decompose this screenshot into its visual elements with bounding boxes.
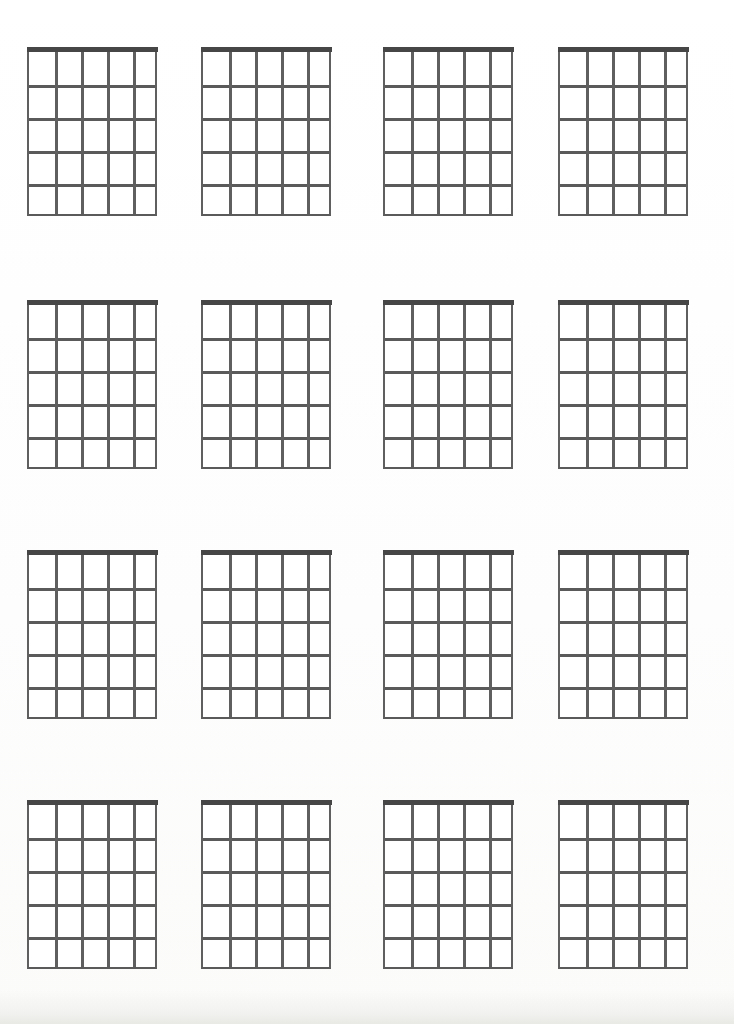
chord-diagram-16[interactable] bbox=[558, 805, 688, 969]
nut-bar bbox=[201, 550, 332, 556]
string-line-2 bbox=[586, 52, 589, 214]
fretboard bbox=[558, 805, 688, 969]
string-line-3 bbox=[255, 805, 258, 967]
chord-diagram-4[interactable] bbox=[558, 52, 688, 216]
string-line-2 bbox=[55, 305, 58, 467]
string-line-2 bbox=[411, 305, 414, 467]
fret-line-3 bbox=[203, 404, 329, 407]
fretboard bbox=[27, 805, 157, 969]
string-line-4 bbox=[638, 555, 641, 717]
fret-line-4 bbox=[560, 184, 686, 187]
string-line-4 bbox=[281, 305, 284, 467]
fretboard bbox=[558, 305, 688, 469]
string-line-3 bbox=[437, 805, 440, 967]
chord-diagram-5[interactable] bbox=[27, 305, 157, 469]
chord-diagram-12[interactable] bbox=[558, 555, 688, 719]
fret-line-2 bbox=[385, 371, 511, 374]
nut-bar bbox=[383, 47, 514, 53]
nut-bar bbox=[27, 800, 158, 806]
string-line-3 bbox=[612, 555, 615, 717]
fret-line-1 bbox=[29, 338, 155, 341]
chord-diagram-6[interactable] bbox=[201, 305, 331, 469]
fret-line-1 bbox=[560, 838, 686, 841]
fret-line-2 bbox=[203, 371, 329, 374]
string-line-4 bbox=[281, 555, 284, 717]
fret-line-1 bbox=[385, 85, 511, 88]
chord-diagram-1[interactable] bbox=[27, 52, 157, 216]
string-line-3 bbox=[612, 305, 615, 467]
string-line-5 bbox=[307, 305, 310, 467]
fretboard bbox=[383, 52, 513, 216]
string-line-4 bbox=[107, 805, 110, 967]
string-line-5 bbox=[307, 52, 310, 214]
string-line-3 bbox=[81, 305, 84, 467]
fretboard bbox=[201, 555, 331, 719]
fretboard bbox=[27, 305, 157, 469]
string-line-3 bbox=[437, 52, 440, 214]
string-line-5 bbox=[664, 305, 667, 467]
string-line-3 bbox=[81, 555, 84, 717]
chord-diagram-10[interactable] bbox=[201, 555, 331, 719]
fret-line-1 bbox=[203, 588, 329, 591]
nut-bar bbox=[558, 550, 689, 556]
fret-line-2 bbox=[29, 871, 155, 874]
fret-line-1 bbox=[29, 85, 155, 88]
fret-line-3 bbox=[560, 151, 686, 154]
string-line-2 bbox=[229, 805, 232, 967]
fret-line-2 bbox=[385, 118, 511, 121]
fret-line-1 bbox=[385, 338, 511, 341]
nut-bar bbox=[383, 800, 514, 806]
fret-line-1 bbox=[385, 588, 511, 591]
fret-line-1 bbox=[560, 338, 686, 341]
fret-line-3 bbox=[203, 654, 329, 657]
fret-line-3 bbox=[203, 151, 329, 154]
fret-line-3 bbox=[385, 904, 511, 907]
fretboard bbox=[201, 52, 331, 216]
fret-line-3 bbox=[203, 904, 329, 907]
fret-line-4 bbox=[385, 937, 511, 940]
fret-line-1 bbox=[29, 588, 155, 591]
string-line-4 bbox=[281, 52, 284, 214]
string-line-4 bbox=[463, 555, 466, 717]
fret-line-2 bbox=[385, 871, 511, 874]
chord-diagram-11[interactable] bbox=[383, 555, 513, 719]
chord-diagram-8[interactable] bbox=[558, 305, 688, 469]
chord-diagram-9[interactable] bbox=[27, 555, 157, 719]
string-line-3 bbox=[437, 555, 440, 717]
chord-diagram-14[interactable] bbox=[201, 805, 331, 969]
chord-diagram-3[interactable] bbox=[383, 52, 513, 216]
fret-line-1 bbox=[203, 338, 329, 341]
string-line-5 bbox=[307, 555, 310, 717]
fretboard bbox=[558, 52, 688, 216]
string-line-5 bbox=[133, 52, 136, 214]
string-line-5 bbox=[664, 52, 667, 214]
chord-diagram-7[interactable] bbox=[383, 305, 513, 469]
chord-diagram-15[interactable] bbox=[383, 805, 513, 969]
fret-line-2 bbox=[29, 371, 155, 374]
string-line-5 bbox=[307, 805, 310, 967]
fret-line-2 bbox=[560, 621, 686, 624]
string-line-5 bbox=[489, 555, 492, 717]
string-line-2 bbox=[411, 555, 414, 717]
fret-line-2 bbox=[29, 621, 155, 624]
fretboard bbox=[383, 555, 513, 719]
string-line-2 bbox=[586, 805, 589, 967]
nut-bar bbox=[558, 300, 689, 306]
fretboard bbox=[558, 555, 688, 719]
string-line-3 bbox=[437, 305, 440, 467]
chord-diagram-13[interactable] bbox=[27, 805, 157, 969]
nut-bar bbox=[383, 550, 514, 556]
fret-line-4 bbox=[29, 687, 155, 690]
string-line-4 bbox=[463, 805, 466, 967]
nut-bar bbox=[201, 300, 332, 306]
fretboard bbox=[383, 305, 513, 469]
fret-line-4 bbox=[29, 184, 155, 187]
string-line-3 bbox=[255, 555, 258, 717]
string-line-5 bbox=[489, 805, 492, 967]
nut-bar bbox=[201, 47, 332, 53]
chord-diagram-2[interactable] bbox=[201, 52, 331, 216]
string-line-2 bbox=[411, 52, 414, 214]
fret-line-2 bbox=[203, 621, 329, 624]
string-line-2 bbox=[229, 555, 232, 717]
fret-line-3 bbox=[385, 654, 511, 657]
